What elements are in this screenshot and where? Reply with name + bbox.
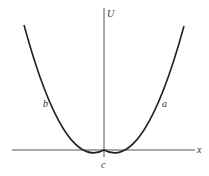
minimum-label-c: c — [101, 159, 106, 170]
branch-label-a: a — [162, 98, 167, 109]
u-axis-label: U — [107, 8, 115, 19]
branch-label-b: b — [43, 98, 48, 109]
diagram-canvas: U x b a c — [0, 0, 209, 176]
x-axis-label: x — [196, 144, 202, 155]
